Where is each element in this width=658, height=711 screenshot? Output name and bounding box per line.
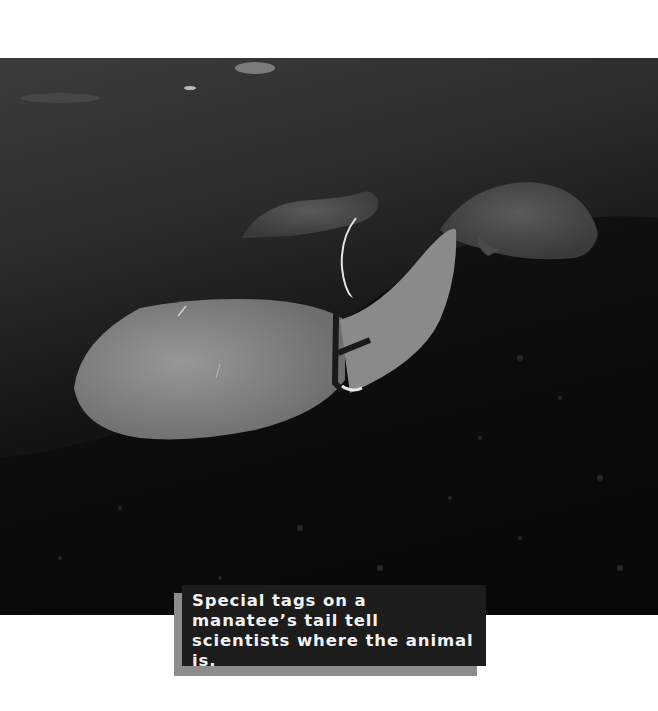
caption-text: Special tags on a manatee’s tail tell sc… bbox=[192, 591, 478, 671]
manatee-photo bbox=[0, 58, 658, 615]
photo-caption: Special tags on a manatee’s tail tell sc… bbox=[182, 585, 486, 666]
